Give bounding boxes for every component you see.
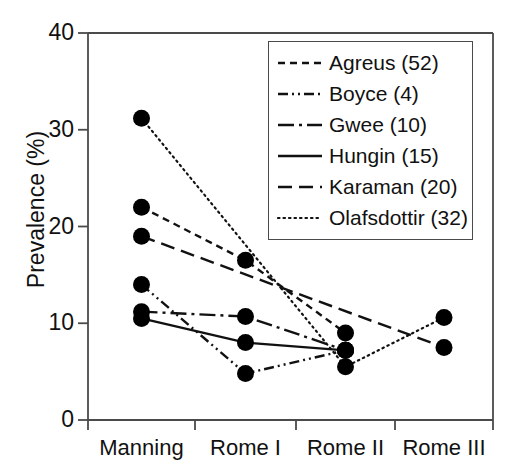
data-point-agreus-manning [133, 199, 150, 216]
data-point-hungin-rome-i [237, 334, 254, 351]
data-point-olafsdottir-manning [133, 110, 150, 127]
data-point-agreus-rome-i [237, 252, 254, 269]
legend-line-sample-boyce [277, 85, 323, 103]
legend-label: Gwee (10) [329, 113, 427, 137]
x-tick-label-rome-iii: Rome III [374, 436, 509, 459]
data-point-olafsdottir-rome-ii [337, 358, 354, 375]
legend-item-agreus[interactable]: Agreus (52) [277, 47, 439, 78]
legend-item-hungin[interactable]: Hungin (15) [277, 140, 439, 171]
data-point-gwee-rome-i [237, 308, 254, 325]
data-point-hungin-rome-ii [337, 342, 354, 359]
legend-item-karaman[interactable]: Karaman (20) [277, 171, 457, 202]
legend-label: Boyce (4) [329, 82, 419, 106]
data-point-agreus-rome-ii [337, 324, 354, 341]
series-line-boyce [142, 285, 346, 374]
legend-label: Hungin (15) [329, 144, 439, 168]
y-tick-label: 0 [18, 408, 74, 431]
legend-label: Olafsdottir (32) [329, 206, 468, 230]
data-point-boyce-rome-i [237, 365, 254, 382]
data-point-olafsdottir-rome-iii [436, 309, 453, 326]
y-tick-label: 30 [18, 118, 74, 141]
chart-figure: Prevalence (%) 010203040 ManningRome IRo… [0, 0, 509, 475]
y-tick-label: 10 [18, 311, 74, 334]
data-point-hungin-manning [133, 310, 150, 327]
legend: Agreus (52)Boyce (4)Gwee (10)Hungin (15)… [268, 41, 473, 240]
series-line-karaman [142, 236, 445, 347]
legend-line-sample-agreus [277, 54, 323, 72]
legend-label: Agreus (52) [329, 51, 439, 75]
y-tick-label: 20 [18, 215, 74, 238]
y-tick-marks [78, 33, 88, 420]
x-tick-marks [88, 420, 493, 430]
legend-label: Karaman (20) [329, 175, 457, 199]
legend-line-sample-olafsdottir [277, 209, 323, 227]
legend-item-gwee[interactable]: Gwee (10) [277, 109, 427, 140]
data-point-karaman-manning [133, 228, 150, 245]
legend-line-sample-karaman [277, 178, 323, 196]
data-point-boyce-manning [133, 276, 150, 293]
legend-item-boyce[interactable]: Boyce (4) [277, 78, 419, 109]
legend-line-sample-hungin [277, 147, 323, 165]
legend-item-olafsdottir[interactable]: Olafsdottir (32) [277, 202, 468, 233]
data-point-karaman-rome-iii [436, 339, 453, 356]
y-tick-label: 40 [18, 21, 74, 44]
legend-line-sample-gwee [277, 116, 323, 134]
